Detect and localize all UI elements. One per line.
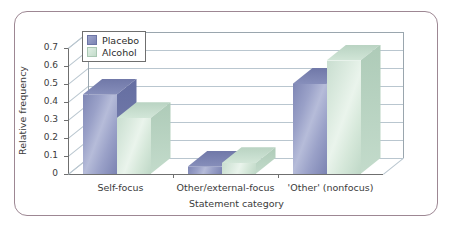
category-label: 'Other' (nonfocus)	[251, 182, 411, 193]
legend-swatch-alcohol	[87, 47, 97, 57]
bar-front-face	[222, 163, 256, 174]
depth-line-bottom-right	[383, 158, 404, 175]
y-axis-title: Relative frequency	[17, 56, 28, 166]
bar-front-face	[293, 84, 327, 174]
bar-alcohol-0	[117, 102, 171, 174]
y-tick-label: 0.1	[32, 150, 58, 160]
y-tick-label: 0.7	[32, 42, 58, 52]
legend-item-placebo: Placebo	[87, 34, 139, 46]
bar-alcohol-2	[327, 45, 381, 174]
chart-legend: Placebo Alcohol	[82, 31, 146, 62]
y-tick-label: 0.4	[32, 96, 58, 106]
legend-label-alcohol: Alcohol	[102, 47, 137, 58]
bar-front-face	[327, 61, 361, 174]
plot-right-back-line	[403, 32, 404, 158]
y-tick-label: 0.5	[32, 78, 58, 88]
x-axis-line	[68, 174, 383, 175]
y-tick-label: 0	[32, 168, 58, 178]
legend-swatch-placebo	[87, 35, 97, 45]
y-tick-label: 0.6	[32, 60, 58, 70]
legend-label-placebo: Placebo	[102, 35, 139, 46]
legend-item-alcohol: Alcohol	[87, 46, 139, 58]
x-axis-title: Statement category	[0, 198, 473, 209]
bar-front-face	[117, 118, 151, 174]
chart-figure: Relative frequency 00.10.20.30.40.50.60.…	[0, 0, 473, 244]
y-axis-line	[68, 48, 69, 174]
y-tick-label: 0.3	[32, 114, 58, 124]
bar-side-face	[361, 45, 381, 174]
bar-front-face	[83, 95, 117, 174]
x-tick-mark	[173, 174, 174, 178]
x-tick-mark	[278, 174, 279, 178]
bar-alcohol-1	[222, 147, 276, 174]
bar-front-face	[188, 167, 222, 174]
plot-area: Relative frequency 00.10.20.30.40.50.60.…	[0, 0, 473, 244]
y-tick-label: 0.2	[32, 132, 58, 142]
